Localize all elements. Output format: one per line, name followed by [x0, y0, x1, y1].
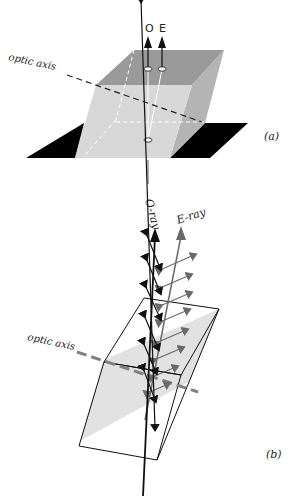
e-ray-label-b: E-ray: [174, 205, 208, 227]
e-label-a: E: [159, 22, 166, 35]
panel-a-label: (a): [264, 130, 279, 143]
o-label-a: O: [145, 22, 154, 35]
plate-left: [26, 123, 84, 158]
panel-b-label: (b): [266, 448, 282, 461]
birefringence-diagram: O E optic axis (a): [0, 0, 294, 496]
panel-a: O E optic axis (a): [8, 22, 280, 184]
optic-axis-label-a: optic axis: [8, 51, 58, 72]
o-ray-label-b: O-ray: [142, 197, 163, 231]
e-exit-spot: [158, 67, 166, 71]
o-exit-spot: [144, 67, 152, 71]
optic-axis-label-b: optic axis: [27, 331, 77, 352]
